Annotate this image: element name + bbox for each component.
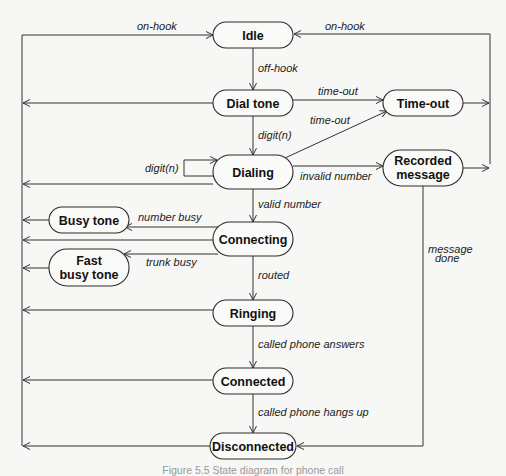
label-on-hook-left: on-hook	[137, 20, 177, 32]
label-message-done-2: done	[435, 252, 459, 264]
svg-text:Ringing: Ringing	[230, 307, 277, 321]
svg-text:Recorded: Recorded	[394, 154, 452, 168]
svg-text:message: message	[396, 168, 450, 182]
svg-text:Disconnected: Disconnected	[212, 440, 294, 454]
svg-text:busy tone: busy tone	[59, 268, 118, 282]
state-dial-tone: Dial tone	[213, 90, 293, 116]
svg-text:Busy tone: Busy tone	[59, 214, 119, 228]
svg-text:Idle: Idle	[242, 29, 264, 43]
label-time-out-2: time-out	[310, 114, 351, 126]
label-on-hook-right: on-hook	[325, 20, 365, 32]
state-time-out: Time-out	[383, 90, 463, 116]
svg-text:Connected: Connected	[221, 375, 286, 389]
svg-text:Connecting: Connecting	[219, 233, 288, 247]
left-return-bus	[22, 35, 213, 446]
label-routed: routed	[258, 269, 290, 281]
svg-text:Dial tone: Dial tone	[227, 97, 280, 111]
state-ringing: Ringing	[213, 300, 293, 326]
label-digit-n: digit(n)	[258, 129, 292, 141]
svg-text:Fast: Fast	[76, 254, 103, 268]
label-off-hook: off-hook	[258, 62, 298, 74]
state-diagram: Idle Dial tone Time-out Dialing Recorded…	[0, 0, 506, 476]
label-digit-n-loop: digit(n)	[145, 162, 179, 174]
state-fast-busy-tone: Fast busy tone	[49, 249, 129, 286]
label-called-answers: called phone answers	[258, 338, 365, 350]
state-connecting: Connecting	[213, 222, 293, 256]
state-disconnected: Disconnected	[210, 433, 296, 459]
label-trunk-busy: trunk busy	[146, 256, 198, 268]
label-invalid-number: invalid number	[300, 170, 373, 182]
state-recorded-message: Recorded message	[383, 150, 463, 186]
label-valid-number: valid number	[258, 198, 322, 210]
svg-text:Time-out: Time-out	[397, 97, 450, 111]
label-number-busy: number busy	[138, 211, 203, 223]
figure-caption: Figure 5.5 State diagram for phone call	[162, 464, 344, 476]
state-idle: Idle	[213, 22, 293, 48]
state-busy-tone: Busy tone	[49, 207, 129, 233]
label-called-hangs-up: called phone hangs up	[258, 406, 369, 418]
edge-digit-loop	[184, 160, 217, 176]
state-connected: Connected	[213, 368, 293, 394]
state-dialing: Dialing	[213, 155, 293, 189]
svg-text:Dialing: Dialing	[232, 166, 274, 180]
label-time-out-1: time-out	[318, 85, 359, 97]
